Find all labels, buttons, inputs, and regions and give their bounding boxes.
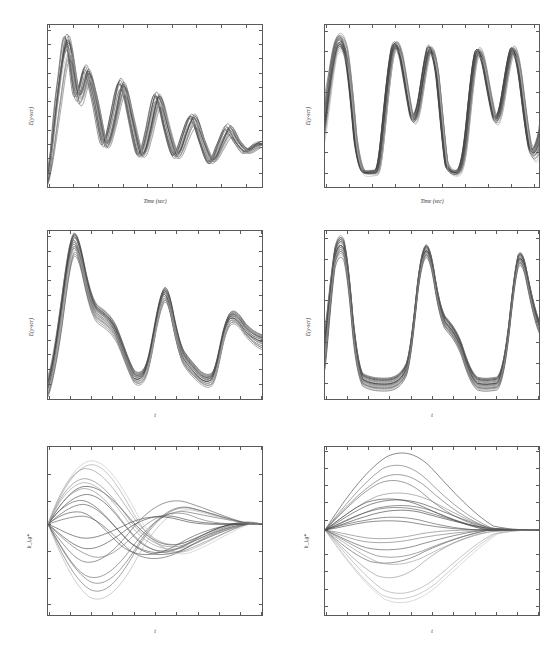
plot-area-top-left: 3.5 3 2.5 2 1.5 1 0.5 0 -0.5 -1 -1.5 0 0…: [47, 24, 263, 188]
panel-top-left: 3.5 3 2.5 2 1.5 1 0.5 0 -0.5 -1 -1.5 0 0…: [0, 0, 277, 216]
plot-area-bottom-left: 0.04 0.02 0 -0.02 -0.04 -0.06 0 0.1 0.2 …: [47, 446, 263, 616]
curve-bundle-top-right: [325, 25, 539, 187]
x-axis-label: t: [431, 628, 433, 634]
y-axis-label: E(y-scr): [28, 107, 34, 125]
panel-top-right: 2.5 2 1.5 1 0.5 0 -0.5 -1 0 0.2 0.4 0.6 …: [277, 0, 554, 216]
x-axis-label: t: [154, 412, 156, 418]
y-axis-label: E(y-scr): [305, 107, 311, 125]
curve-bundle-middle-left: [48, 231, 262, 399]
y-axis-label: h_i,g*: [303, 534, 309, 548]
plot-area-middle-left: 3.5 3 2.5 2 1.5 1 0.5 0 -0.5 -1 -1.5 0 0…: [47, 230, 263, 400]
panel-bottom-left: 0.04 0.02 0 -0.02 -0.04 -0.06 0 0.1 0.2 …: [0, 432, 277, 648]
plot-area-bottom-right: 0.1 0.08 0.06 0.04 0.02 0 -0.02 -0.04 -0…: [324, 446, 540, 616]
curve-bundle-middle-right: [325, 231, 539, 399]
x-axis-label: t: [431, 412, 433, 418]
x-axis-label: t: [154, 628, 156, 634]
curve-bundle-top-left: [48, 25, 262, 187]
y-axis-label: h_i,g*: [26, 534, 32, 548]
plot-area-top-right: 2.5 2 1.5 1 0.5 0 -0.5 -1 0 0.2 0.4 0.6 …: [324, 24, 540, 188]
panel-middle-left: 3.5 3 2.5 2 1.5 1 0.5 0 -0.5 -1 -1.5 0 0…: [0, 216, 277, 432]
y-axis-label: E(y-scr): [28, 318, 34, 336]
panel-bottom-right: 0.1 0.08 0.06 0.04 0.02 0 -0.02 -0.04 -0…: [277, 432, 554, 648]
figure-canvas: 3.5 3 2.5 2 1.5 1 0.5 0 -0.5 -1 -1.5 0 0…: [0, 0, 554, 648]
plot-area-middle-right: 2.5 2 1.5 1 0.5 0 -0.5 -1 0 0.1 0.2 0.3 …: [324, 230, 540, 400]
y-axis-label: E(y-scr): [305, 318, 311, 336]
curve-bundle-bottom-left: [48, 447, 262, 615]
curve-bundle-bottom-right: [325, 447, 539, 615]
x-axis-label: Time (sec): [420, 198, 443, 204]
x-axis-label: Time (sec): [143, 198, 166, 204]
panel-middle-right: 2.5 2 1.5 1 0.5 0 -0.5 -1 0 0.1 0.2 0.3 …: [277, 216, 554, 432]
